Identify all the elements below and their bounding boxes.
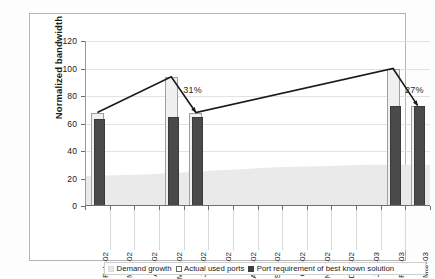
x-axis-label-separator	[110, 210, 111, 250]
y-axis-tick-label: 60	[67, 119, 77, 129]
chart-legend: Demand growth Actual used ports Port req…	[104, 262, 426, 275]
x-axis-label-separator	[208, 210, 209, 250]
x-axis-label-separator	[331, 210, 332, 250]
x-axis-label-separator	[134, 210, 135, 250]
y-axis-tick-label: 100	[63, 64, 77, 74]
y-axis-tick-label: 120	[63, 36, 77, 46]
legend-label-port-requirement: Port requirement of best known solution	[257, 264, 394, 273]
legend-swatch-icon-port-requirement	[248, 266, 254, 272]
y-axis-tick-label: 20	[67, 174, 77, 184]
y-axis-tick-label: 80	[67, 91, 77, 101]
y-axis-tick-label: 40	[67, 146, 77, 156]
legend-item-actual-used-ports: Actual used ports	[176, 264, 245, 273]
legend-label-demand-growth: Demand growth	[117, 264, 172, 273]
y-axis-tick-label: 0	[72, 201, 77, 211]
x-axis-label-separator	[405, 210, 406, 250]
plot-area: 31%27%	[85, 41, 430, 206]
x-axis-label-separator	[282, 210, 283, 250]
x-axis-tickmark	[430, 206, 431, 210]
y-axis-tick-labels: 020406080100120	[30, 41, 82, 206]
x-axis-tick-labels: Feb-02Mar-02Apr-02May-02Jun-02Jul-02Aug-…	[85, 210, 430, 256]
x-axis-label-separator	[307, 210, 308, 250]
legend-label-actual-used-ports: Actual used ports	[184, 264, 244, 273]
legend-item-demand-growth: Demand growth	[108, 264, 172, 273]
legend-swatch-icon-actual-used-ports	[176, 266, 182, 272]
legend-swatch-icon-demand-growth	[108, 266, 114, 272]
plot-axes-box	[85, 41, 430, 206]
legend-item-port-requirement: Port requirement of best known solution	[248, 264, 394, 273]
x-axis-label-separator	[184, 210, 185, 250]
x-axis-label-separator	[381, 210, 382, 250]
chart-frame: Normalized bandwidth 020406080100120 31%…	[29, 13, 406, 261]
x-axis-label-separator	[159, 210, 160, 250]
x-axis-label-separator	[258, 210, 259, 250]
x-axis-label-separator	[233, 210, 234, 250]
x-axis-label-separator	[356, 210, 357, 250]
